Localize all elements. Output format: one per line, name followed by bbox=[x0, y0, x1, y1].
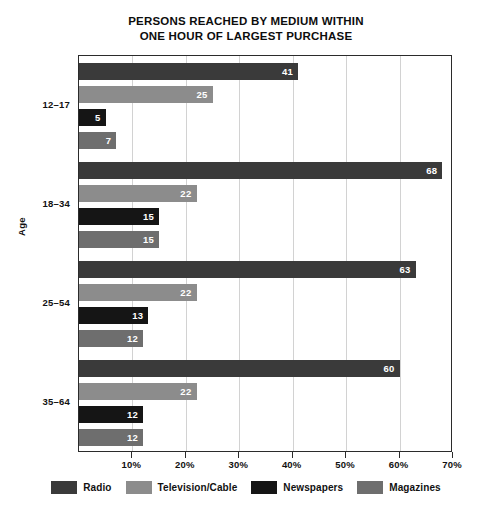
bar-value-label: 25 bbox=[196, 86, 207, 103]
bar-row: 22 bbox=[79, 284, 197, 301]
legend-item: Magazines bbox=[357, 481, 440, 494]
bar-value-label: 60 bbox=[383, 360, 394, 377]
bar-value-label: 12 bbox=[127, 429, 138, 446]
x-axis-tick bbox=[131, 452, 132, 458]
legend-swatch bbox=[51, 481, 77, 494]
bar-value-label: 15 bbox=[143, 208, 154, 225]
bar-row: 25 bbox=[79, 86, 213, 103]
bar-row: 22 bbox=[79, 185, 197, 202]
bar bbox=[79, 360, 400, 377]
legend-swatch bbox=[357, 481, 383, 494]
x-axis-tick bbox=[452, 452, 453, 458]
bar bbox=[79, 109, 106, 126]
x-axis-tick bbox=[185, 452, 186, 458]
bar-chart: PERSONS REACHED BY MEDIUM WITHIN ONE HOU… bbox=[0, 0, 492, 522]
bar-value-label: 41 bbox=[282, 63, 293, 80]
y-axis-group-label: 25–54 bbox=[43, 297, 70, 308]
legend-swatch bbox=[126, 481, 152, 494]
x-axis-tick-label: 20% bbox=[175, 459, 195, 470]
bar-row: 12 bbox=[79, 330, 143, 347]
bar bbox=[79, 86, 213, 103]
bar-row: 68 bbox=[79, 162, 442, 179]
bar-row: 60 bbox=[79, 360, 400, 377]
legend-label: Newspapers bbox=[283, 482, 343, 493]
y-axis-group-label: 35–64 bbox=[43, 396, 70, 407]
bar-row: 7 bbox=[79, 132, 116, 149]
x-axis-tick-label: 10% bbox=[122, 459, 142, 470]
bar-value-label: 12 bbox=[127, 330, 138, 347]
bar-value-label: 22 bbox=[180, 284, 191, 301]
x-axis-tick bbox=[292, 452, 293, 458]
x-axis-tick-label: 30% bbox=[228, 459, 248, 470]
bar bbox=[79, 284, 197, 301]
x-axis-tick-label: 70% bbox=[442, 459, 462, 470]
x-axis-tick bbox=[399, 452, 400, 458]
legend-label: Radio bbox=[83, 482, 111, 493]
y-axis-group-label: 12–17 bbox=[43, 99, 70, 110]
y-axis-title: Age bbox=[16, 217, 27, 236]
bar-value-label: 13 bbox=[132, 307, 143, 324]
bar-row: 13 bbox=[79, 307, 148, 324]
bar bbox=[79, 162, 442, 179]
x-axis-tick-label: 50% bbox=[335, 459, 355, 470]
plot-area: 412557682215156322131260221212 bbox=[78, 55, 452, 452]
x-axis-tick bbox=[345, 452, 346, 458]
x-axis-tick bbox=[238, 452, 239, 458]
y-axis-group-label: 18–34 bbox=[43, 198, 70, 209]
legend: RadioTelevision/CableNewspapersMagazines bbox=[0, 481, 492, 494]
gridline bbox=[346, 56, 347, 451]
bar-row: 12 bbox=[79, 429, 143, 446]
bar-value-label: 15 bbox=[143, 231, 154, 248]
bar bbox=[79, 261, 416, 278]
bar-row: 63 bbox=[79, 261, 416, 278]
bar-value-label: 22 bbox=[180, 383, 191, 400]
x-axis-tick-label: 40% bbox=[282, 459, 302, 470]
legend-label: Television/Cable bbox=[158, 482, 238, 493]
bar-row: 12 bbox=[79, 406, 143, 423]
bar-row: 15 bbox=[79, 208, 159, 225]
bar-row: 5 bbox=[79, 109, 106, 126]
bar-value-label: 68 bbox=[426, 162, 437, 179]
legend-item: Television/Cable bbox=[126, 481, 238, 494]
bar bbox=[79, 63, 298, 80]
chart-title-line-2: ONE HOUR OF LARGEST PURCHASE bbox=[0, 29, 492, 44]
bar-row: 22 bbox=[79, 383, 197, 400]
bar-value-label: 7 bbox=[106, 132, 112, 149]
chart-title-line-1: PERSONS REACHED BY MEDIUM WITHIN bbox=[0, 14, 492, 29]
bar-row: 15 bbox=[79, 231, 159, 248]
x-axis-tick-label: 60% bbox=[389, 459, 409, 470]
bar-value-label: 12 bbox=[127, 406, 138, 423]
bar bbox=[79, 383, 197, 400]
gridline bbox=[239, 56, 240, 451]
gridline bbox=[400, 56, 401, 451]
chart-title: PERSONS REACHED BY MEDIUM WITHIN ONE HOU… bbox=[0, 14, 492, 44]
bar bbox=[79, 185, 197, 202]
legend-item: Newspapers bbox=[251, 481, 343, 494]
bar-value-label: 63 bbox=[399, 261, 410, 278]
gridline bbox=[293, 56, 294, 451]
bar-value-label: 22 bbox=[180, 185, 191, 202]
bar-row: 41 bbox=[79, 63, 298, 80]
bar-value-label: 5 bbox=[95, 109, 101, 126]
legend-label: Magazines bbox=[389, 482, 440, 493]
legend-item: Radio bbox=[51, 481, 111, 494]
legend-swatch bbox=[251, 481, 277, 494]
